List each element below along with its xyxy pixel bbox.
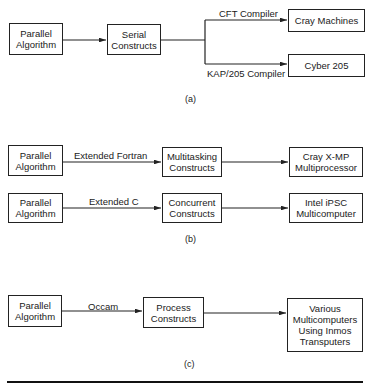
node-text: Cray X-MP — [303, 151, 349, 162]
caption-a: (a) — [185, 94, 196, 104]
node-a-parallel-algorithm: Parallel Algorithm — [9, 23, 63, 55]
node-text: Cyber 205 — [305, 60, 349, 71]
node-text: Cray Machines — [295, 15, 358, 26]
node-text: Using Inmos — [299, 325, 352, 336]
node-text: Transputers — [300, 336, 350, 347]
node-text: Multitasking — [167, 151, 217, 162]
node-text: Constructs — [111, 40, 156, 51]
node-text: Various — [309, 303, 341, 314]
node-text: Process — [156, 302, 190, 313]
node-text: Constructs — [169, 162, 214, 173]
node-b1-parallel-algorithm: Parallel Algorithm — [8, 145, 63, 176]
node-a-cray-machines: Cray Machines — [288, 9, 365, 32]
node-text: Multicomputer — [296, 208, 356, 219]
node-text: Parallel — [19, 300, 51, 311]
node-b1-cray-xmp: Cray X-MP Multiprocessor — [289, 147, 363, 177]
node-text: Concurrent — [169, 197, 216, 208]
bottom-rule — [7, 381, 363, 383]
node-b2-intel-ipsc: Intel iPSC Multicomputer — [289, 193, 363, 223]
edge-label-kap205-compiler: KAP/205 Compiler — [207, 68, 285, 79]
node-text: Intel iPSC — [305, 197, 347, 208]
edge-label-extended-fortran: Extended Fortran — [74, 150, 147, 161]
node-a-cyber-205: Cyber 205 — [288, 54, 365, 77]
node-text: Multiprocessor — [295, 162, 357, 173]
node-text: Parallel — [20, 150, 52, 161]
caption-b: (b) — [185, 234, 196, 244]
node-c-parallel-algorithm: Parallel Algorithm — [8, 295, 62, 327]
node-text: Algorithm — [15, 161, 55, 172]
node-text: Algorithm — [15, 208, 55, 219]
edge-label-occam: Occam — [88, 301, 118, 312]
node-text: Multicomputers — [293, 314, 357, 325]
node-text: Algorithm — [15, 311, 55, 322]
edge-label-extended-c: Extended C — [89, 196, 139, 207]
node-b2-concurrent-constructs: Concurrent Constructs — [162, 193, 222, 223]
caption-c: (c) — [184, 359, 195, 369]
node-b1-multitasking-constructs: Multitasking Constructs — [162, 147, 222, 177]
node-b2-parallel-algorithm: Parallel Algorithm — [8, 193, 63, 223]
node-text: Algorithm — [16, 39, 56, 50]
node-text: Constructs — [169, 208, 214, 219]
node-text: Parallel — [20, 28, 52, 39]
node-text: Constructs — [151, 313, 196, 324]
edge-label-cft-compiler: CFT Compiler — [219, 8, 278, 19]
node-c-process-constructs: Process Constructs — [143, 297, 204, 328]
node-a-serial-constructs: Serial Constructs — [107, 24, 161, 55]
node-text: Parallel — [20, 197, 52, 208]
node-text: Serial — [122, 29, 146, 40]
node-c-various-multicomputers: Various Multicomputers Using Inmos Trans… — [287, 298, 363, 352]
